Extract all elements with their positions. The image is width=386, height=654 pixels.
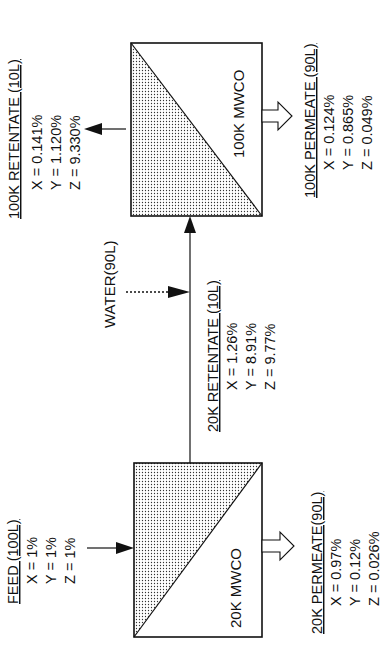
permeate-100k-outlet-arrow: [262, 102, 292, 130]
retentate-transfer-line: [184, 216, 196, 463]
retentate-20k-z: Z = 9.77%: [262, 323, 278, 390]
arrow-left-icon: [84, 123, 102, 135]
membrane-20k-label: 20K MWCO: [227, 548, 244, 628]
feed-info: FEED (100L) X = 1% Y = 1% Z = 1%: [5, 519, 78, 604]
feed-y: Y = 1%: [43, 537, 59, 584]
feed-x: X = 1%: [24, 537, 40, 584]
retentate-100k-info: 100K RETENTATE (10L) X = 0.141% Y = 1.12…: [6, 59, 83, 219]
retentate-20k-info: 20K RETENTATE (10L) X = 1.26% Y = 8.91% …: [205, 280, 278, 432]
retentate-100k-outlet-arrow: [84, 123, 126, 135]
retentate-20k-x: X = 1.26%: [224, 323, 240, 390]
retentate-20k-title: 20K RETENTATE (10L): [205, 280, 221, 432]
feed-title: FEED (100L): [5, 519, 21, 604]
retentate-100k-y: Y = 1.120%: [48, 115, 64, 190]
retentate-100k-x: X = 0.141%: [29, 115, 45, 190]
arrow-right-icon: [116, 542, 134, 554]
permeate-20k-z: Z = 0.026%: [366, 531, 382, 606]
permeate-100k-z: Z = 0.049%: [359, 95, 375, 170]
membrane-100k-label: 100K MWCO: [230, 70, 247, 158]
retentate-100k-z: Z = 9.330%: [67, 115, 83, 190]
permeate-100k-title: 100K PERMEATE (90L): [302, 44, 318, 198]
permeate-100k-info: 100K PERMEATE (90L) X = 0.124% Y = 0.865…: [302, 44, 375, 198]
retentate-100k-title: 100K RETENTATE (10L): [6, 59, 22, 219]
arrow-up-icon: [184, 216, 196, 233]
feed-inlet-arrow: [87, 542, 134, 554]
ultrafiltration-process-diagram: 100K MWCO 20K MWCO 100K RETENTATE (10L) …: [0, 0, 386, 654]
permeate-20k-title: 20K PERMEATE(90L): [309, 492, 325, 634]
permeate-20k-outlet-arrow: [262, 532, 294, 560]
membrane-100k: 100K MWCO: [131, 43, 262, 216]
feed-z: Z = 1%: [62, 538, 78, 584]
hollow-arrow-right-icon: [262, 532, 294, 560]
permeate-20k-x: X = 0.97%: [328, 539, 344, 606]
permeate-20k-y: Y = 0.12%: [347, 539, 363, 606]
hollow-arrow-right-icon: [262, 102, 292, 130]
permeate-20k-info: 20K PERMEATE(90L) X = 0.97% Y = 0.12% Z …: [309, 492, 382, 634]
permeate-100k-y: Y = 0.865%: [340, 95, 356, 170]
permeate-100k-x: X = 0.124%: [321, 95, 337, 170]
retentate-20k-y: Y = 8.91%: [243, 323, 259, 390]
water-inlet-arrow: [126, 286, 190, 298]
arrow-right-icon: [168, 286, 190, 298]
water-label: WATER(90L): [101, 240, 118, 328]
membrane-20k: 20K MWCO: [134, 463, 262, 637]
